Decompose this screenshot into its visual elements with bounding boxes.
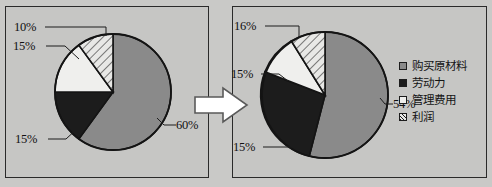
legend-label-0: 购买原材料 (412, 60, 467, 73)
legend-item-0: 购买原材料 (399, 58, 485, 74)
leader-line-white (261, 74, 288, 81)
leader-line-gray (380, 98, 393, 104)
left-leader-lines (6, 7, 210, 179)
legend-item-2: 管理费用 (399, 92, 485, 108)
legend-swatch-black-icon (399, 79, 407, 87)
left-label-black: 15% (15, 132, 37, 147)
leader-line-hatch (45, 27, 106, 36)
legend-swatch-gray-icon (399, 62, 407, 70)
leader-line-black (48, 127, 79, 139)
leader-line-black (263, 137, 305, 147)
right-label-white: 15% (231, 67, 253, 82)
figure-root: 10% 15% 15% 60% (0, 0, 492, 187)
legend-item-1: 劳动力 (399, 75, 485, 91)
legend-label-2: 管理费用 (412, 94, 456, 107)
right-label-black: 15% (233, 140, 255, 155)
legend-item-3: 利润 (399, 109, 485, 125)
legend-swatch-hatch-icon (399, 113, 407, 121)
leader-line-white (46, 46, 79, 59)
legend-label-3: 利润 (412, 111, 434, 124)
left-label-white: 15% (13, 39, 35, 54)
legend: 购买原材料 劳动力 管理费用 利润 (399, 58, 485, 126)
right-label-hatch: 16% (234, 19, 256, 34)
left-label-hatch: 10% (14, 20, 36, 35)
leader-line-hatch (265, 26, 299, 37)
leader-line-gray (157, 118, 176, 125)
legend-swatch-white-icon (399, 96, 407, 104)
left-chart-panel: 10% 15% 15% 60% (5, 6, 209, 178)
arrow-shape (195, 88, 247, 122)
legend-label-1: 劳动力 (412, 77, 445, 90)
right-arrow-icon (193, 85, 249, 125)
